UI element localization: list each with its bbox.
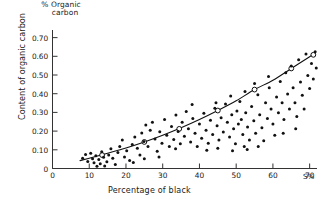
y-tick-label: 0.70 (22, 34, 48, 43)
x-tick-label: 0 (44, 171, 62, 180)
y-tick-label: 0.20 (22, 127, 48, 136)
fit-curve-markers (100, 52, 316, 157)
y-tick-label: 0.60 (22, 52, 48, 61)
x-tick-label: 20 (117, 171, 135, 180)
y-axis-ticks (53, 38, 58, 169)
axes (53, 30, 318, 169)
x-tick-label: 70 (301, 171, 319, 180)
x-tick-label: 10 (80, 171, 98, 180)
fit-curve (80, 53, 315, 161)
x-tick-label: 30 (154, 171, 172, 180)
x-tick-label: 60 (264, 171, 282, 180)
y-tick-label: 0.40 (22, 90, 48, 99)
y-tick-label: 0.10 (22, 146, 48, 155)
chart-figure: % Organic carbon Content of organic carb… (0, 0, 335, 202)
y-tick-label: 0.50 (22, 71, 48, 80)
x-axis-ticks (53, 164, 310, 169)
y-tick-label: 0.30 (22, 108, 48, 117)
x-tick-label: 50 (227, 171, 245, 180)
x-tick-label: 40 (190, 171, 208, 180)
